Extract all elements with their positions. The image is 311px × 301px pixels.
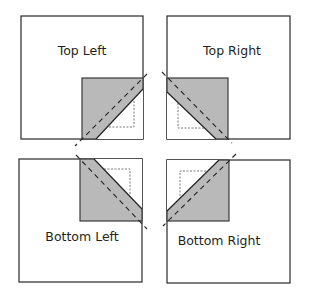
quilt-block-diagram: Top Left Top Right Bottom Left Bottom Ri… — [0, 0, 311, 301]
panel-label-bottom-left: Bottom Left — [45, 229, 118, 244]
panel-bottom-left: Bottom Left — [19, 155, 147, 282]
panel-top-right: Top Right — [162, 16, 290, 143]
panel-label-top-right: Top Right — [202, 43, 261, 58]
panel-label-top-left: Top Left — [57, 43, 107, 58]
panel-label-bottom-right: Bottom Right — [178, 233, 261, 248]
panel-bottom-right: Bottom Right — [163, 154, 290, 283]
panel-top-left: Top Left — [21, 16, 147, 146]
